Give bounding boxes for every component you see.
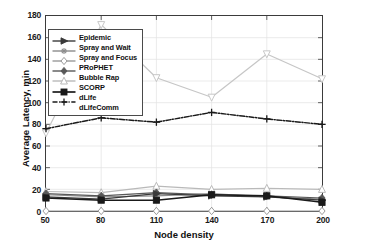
data-point-marker xyxy=(208,94,215,101)
legend-label: Epidemic xyxy=(79,33,111,42)
y-tick-label: 160 xyxy=(5,32,41,42)
legend-label: Spray and Wait xyxy=(79,43,131,52)
legend: EpidemicSpray and WaitSpray and FocusPRo… xyxy=(48,29,143,116)
legend-key-plus-icon xyxy=(51,93,77,103)
data-point-marker xyxy=(209,207,215,214)
legend-item-dlife[interactable]: dLife xyxy=(51,93,139,103)
x-tick-label: 170 xyxy=(247,215,287,225)
chart-figure: Average Latency, min 0204060801001201401… xyxy=(0,0,369,251)
legend-label: PRoPHET xyxy=(79,63,113,72)
x-tick-label: 50 xyxy=(25,215,65,225)
x-tick-label: 140 xyxy=(192,215,232,225)
data-point-marker xyxy=(153,119,160,126)
data-point-marker xyxy=(319,199,325,205)
x-tick-label: 80 xyxy=(81,215,121,225)
data-point-marker xyxy=(264,207,270,214)
legend-item-spray-and-wait[interactable]: Spray and Wait xyxy=(51,42,139,52)
legend-item-bubble-rap[interactable]: Bubble Rap xyxy=(51,72,139,82)
series-spray-and-focus xyxy=(43,207,325,214)
x-tick-label: 110 xyxy=(136,215,176,225)
data-point-marker xyxy=(319,76,326,83)
legend-key-triangle-open-icon xyxy=(51,72,77,82)
legend-label: dLife xyxy=(79,93,96,102)
data-point-marker xyxy=(153,197,159,203)
data-point-marker xyxy=(43,195,49,201)
data-point-marker xyxy=(318,121,325,128)
y-tick-label: 120 xyxy=(5,76,41,86)
y-tick-label: 40 xyxy=(5,163,41,173)
data-point-marker xyxy=(43,207,49,214)
legend-key-right-triangle-icon xyxy=(51,32,77,42)
legend-key-diamond-filled-icon xyxy=(51,62,77,72)
data-point-marker xyxy=(153,207,159,214)
legend-key-asterisk-icon xyxy=(51,42,77,52)
legend-label: Bubble Rap xyxy=(79,73,119,82)
data-point-marker xyxy=(264,193,270,199)
y-tick-label: 100 xyxy=(5,98,41,108)
legend-item-epidemic[interactable]: Epidemic xyxy=(51,32,139,42)
legend-label: SCORP xyxy=(79,83,105,92)
y-tick-label: 140 xyxy=(5,54,41,64)
data-point-marker xyxy=(263,115,270,122)
y-tick-label: 180 xyxy=(5,10,41,20)
legend-item-prophet[interactable]: PRoPHET xyxy=(51,62,139,72)
data-point-marker xyxy=(208,109,215,116)
data-point-marker xyxy=(98,197,104,203)
legend-item-scorp[interactable]: SCORP xyxy=(51,82,139,92)
x-tick-label: 200 xyxy=(303,215,343,225)
data-point-marker xyxy=(319,207,325,214)
x-axis-title: Node density xyxy=(45,229,323,240)
legend-item-dlifecomm[interactable]: dLifeComm xyxy=(51,103,139,113)
legend-label: dLifeComm xyxy=(79,103,119,112)
y-tick-label: 20 xyxy=(5,185,41,195)
data-point-marker xyxy=(209,192,215,198)
legend-key-square-filled-icon xyxy=(51,83,77,93)
legend-key-diamond-open-icon xyxy=(51,52,77,62)
y-tick-label: 80 xyxy=(5,119,41,129)
y-tick-label: 60 xyxy=(5,141,41,151)
legend-label: Spray and Focus xyxy=(79,53,137,62)
legend-item-spray-and-focus[interactable]: Spray and Focus xyxy=(51,52,139,62)
legend-key-triangle-down-icon xyxy=(51,103,77,113)
data-point-marker xyxy=(98,207,104,214)
data-point-marker xyxy=(263,51,270,58)
